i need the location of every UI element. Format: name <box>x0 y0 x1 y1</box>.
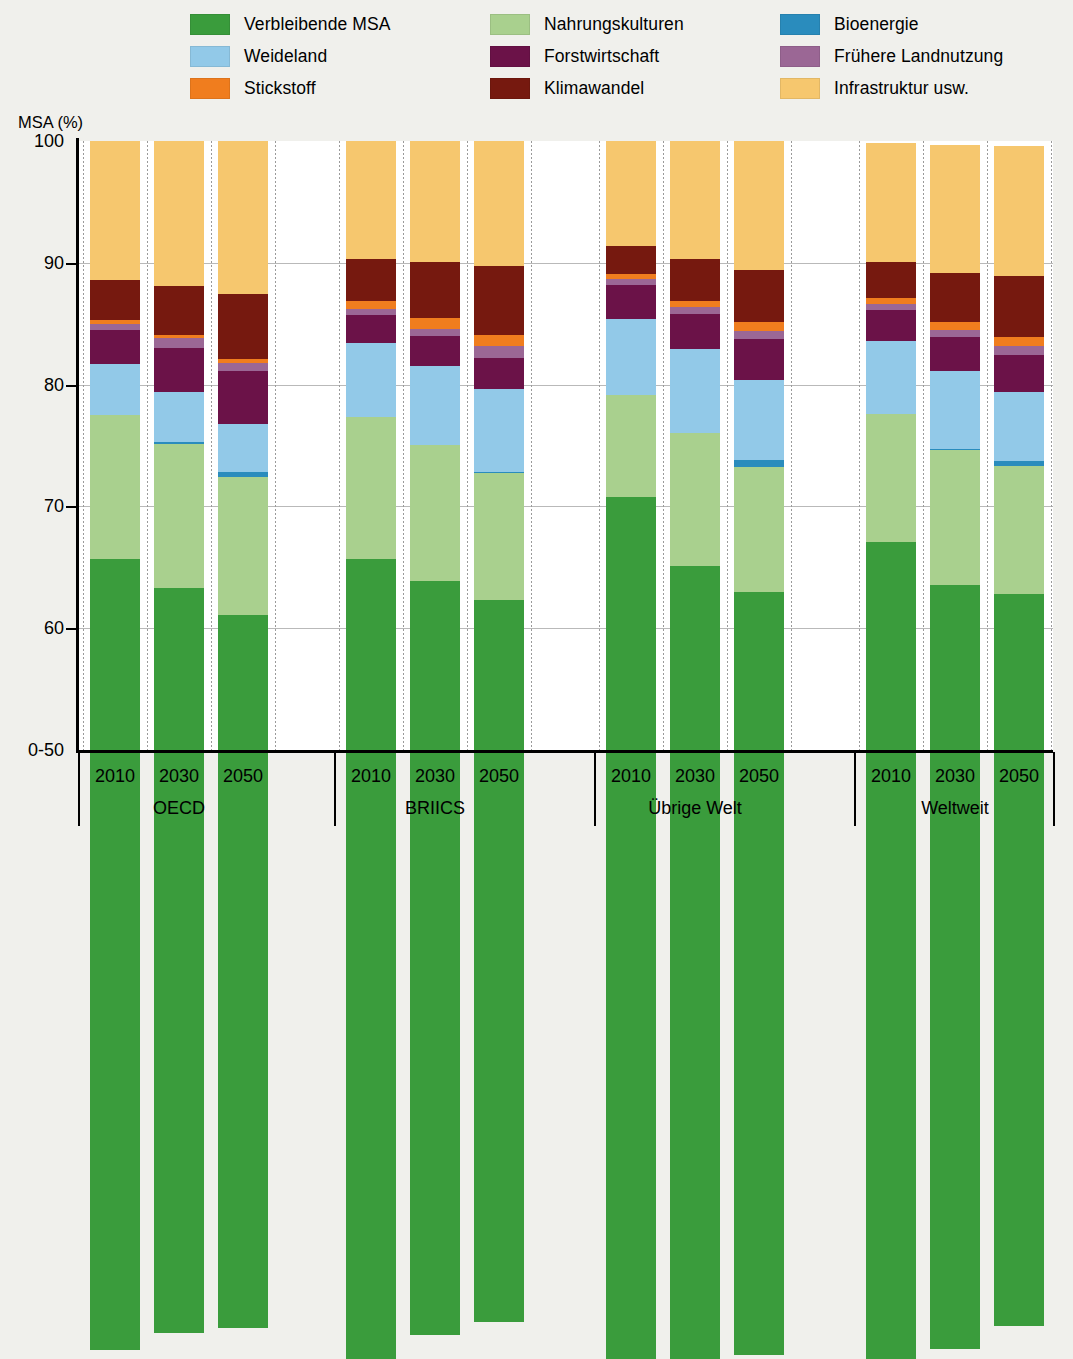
bar-segment-weideland <box>994 392 1044 461</box>
bar-segment-verbleibende-msa <box>410 581 460 1335</box>
bar-segment-stickstoff <box>346 301 396 310</box>
bar-segment-fr-here-landnutzung <box>410 329 460 336</box>
bar-übrige-welt-2050[interactable] <box>734 141 784 750</box>
bar-segment-weideland <box>218 424 268 473</box>
legend-swatch-fruehere_landnutzung <box>780 46 820 67</box>
bar-segment-weideland <box>474 389 524 472</box>
legend-label-forstwirtschaft: Forstwirtschaft <box>544 46 659 67</box>
bar-segment-fr-here-landnutzung <box>474 346 524 358</box>
bar-segment-klimawandel <box>606 246 656 274</box>
y-tick-mark-60 <box>66 628 78 630</box>
bar-segment-forstwirtschaft <box>994 355 1044 392</box>
group-separator <box>275 141 276 750</box>
bar-segment-verbleibende-msa <box>930 585 980 1349</box>
bar-segment-nahrungskulturen <box>474 473 524 600</box>
y-tick-label-70: 70 <box>0 496 64 517</box>
bar-segment-infrastruktur-usw- <box>474 141 524 266</box>
x-year-label-oecd-2050: 2050 <box>208 766 278 787</box>
bar-segment-infrastruktur-usw- <box>930 145 980 273</box>
group-separator <box>1051 141 1052 750</box>
bar-segment-weideland <box>866 341 916 414</box>
x-year-label-briics-2050: 2050 <box>464 766 534 787</box>
legend-label-weideland: Weideland <box>244 46 327 67</box>
bar-briics-2050[interactable] <box>474 141 524 750</box>
bar-segment-weideland <box>734 380 784 460</box>
y-tick-label-0-50: 0-50 <box>0 740 64 761</box>
legend-swatch-klimawandel <box>490 78 530 99</box>
legend-swatch-bioenergie <box>780 14 820 35</box>
x-axis-area: 201020302050OECD201020302050BRIICS201020… <box>76 752 1053 828</box>
bar-segment-klimawandel <box>734 270 784 322</box>
group-separator <box>987 141 988 750</box>
legend-label-infrastruktur: Infrastruktur usw. <box>834 78 969 99</box>
bar-weltweit-2030[interactable] <box>930 145 980 750</box>
legend-swatch-verbleibende_msa <box>190 14 230 35</box>
bar-oecd-2030[interactable] <box>154 141 204 750</box>
x-year-label-oecd-2030: 2030 <box>144 766 214 787</box>
bar-segment-forstwirtschaft <box>346 315 396 343</box>
x-group-label-briics: BRIICS <box>320 798 550 819</box>
bar-segment-infrastruktur-usw- <box>734 141 784 270</box>
bar-segment-forstwirtschaft <box>90 330 140 364</box>
bar-weltweit-2050[interactable] <box>994 146 1044 750</box>
bar-segment-stickstoff <box>734 322 784 331</box>
bar-segment-forstwirtschaft <box>734 339 784 379</box>
bar-segment-bioenergie <box>734 460 784 467</box>
bar-segment-nahrungskulturen <box>218 477 268 615</box>
bar-segment-klimawandel <box>670 259 720 300</box>
bar-briics-2010[interactable] <box>346 141 396 750</box>
bar-segment-forstwirtschaft <box>606 285 656 319</box>
group-separator <box>83 141 84 750</box>
bar-übrige-welt-2030[interactable] <box>670 141 720 750</box>
legend-label-klimawandel: Klimawandel <box>544 78 644 99</box>
bar-segment-forstwirtschaft <box>866 310 916 340</box>
legend-item-bioenergie: Bioenergie <box>780 14 1070 35</box>
bar-segment-klimawandel <box>218 294 268 359</box>
bar-segment-forstwirtschaft <box>474 358 524 390</box>
legend-swatch-stickstoff <box>190 78 230 99</box>
bar-segment-weideland <box>154 392 204 442</box>
bar-segment-forstwirtschaft <box>930 337 980 371</box>
bar-briics-2030[interactable] <box>410 141 460 750</box>
group-separator <box>923 141 924 750</box>
legend-item-verbleibende_msa: Verbleibende MSA <box>190 14 490 35</box>
group-separator <box>663 141 664 750</box>
bar-segment-verbleibende-msa <box>994 594 1044 1326</box>
bar-segment-klimawandel <box>410 262 460 318</box>
bar-segment-klimawandel <box>994 276 1044 337</box>
bar-segment-forstwirtschaft <box>410 336 460 366</box>
legend-swatch-nahrungskulturen <box>490 14 530 35</box>
bar-segment-nahrungskulturen <box>154 444 204 588</box>
bar-segment-verbleibende-msa <box>346 559 396 1359</box>
group-separator <box>403 141 404 750</box>
group-separator <box>727 141 728 750</box>
x-year-label-briics-2030: 2030 <box>400 766 470 787</box>
bar-übrige-welt-2010[interactable] <box>606 141 656 750</box>
bar-segment-stickstoff <box>994 337 1044 346</box>
bar-segment-stickstoff <box>410 318 460 329</box>
bar-segment-stickstoff <box>474 335 524 346</box>
bar-weltweit-2010[interactable] <box>866 143 916 750</box>
bar-segment-klimawandel <box>154 286 204 335</box>
legend-item-klimawandel: Klimawandel <box>490 78 780 99</box>
group-separator <box>791 141 792 750</box>
bar-segment-weideland <box>410 366 460 445</box>
y-tick-label-80: 80 <box>0 375 64 396</box>
bar-oecd-2010[interactable] <box>90 141 140 750</box>
legend-item-weideland: Weideland <box>190 46 490 67</box>
x-group-label-oecd: OECD <box>64 798 294 819</box>
bar-segment-weideland <box>670 349 720 433</box>
legend-swatch-infrastruktur <box>780 78 820 99</box>
bar-segment-verbleibende-msa <box>734 592 784 1356</box>
bar-segment-infrastruktur-usw- <box>866 143 916 261</box>
bar-segment-weideland <box>346 343 396 417</box>
legend-swatch-forstwirtschaft <box>490 46 530 67</box>
bar-oecd-2050[interactable] <box>218 141 268 750</box>
bar-segment-nahrungskulturen <box>346 417 396 558</box>
x-group-label-übrige-welt: Übrige Welt <box>580 798 810 819</box>
legend-item-infrastruktur: Infrastruktur usw. <box>780 78 1070 99</box>
bar-segment-verbleibende-msa <box>90 559 140 1351</box>
bar-segment-nahrungskulturen <box>734 467 784 591</box>
y-tick-label-100: 100 <box>0 131 64 152</box>
bar-segment-infrastruktur-usw- <box>218 141 268 294</box>
